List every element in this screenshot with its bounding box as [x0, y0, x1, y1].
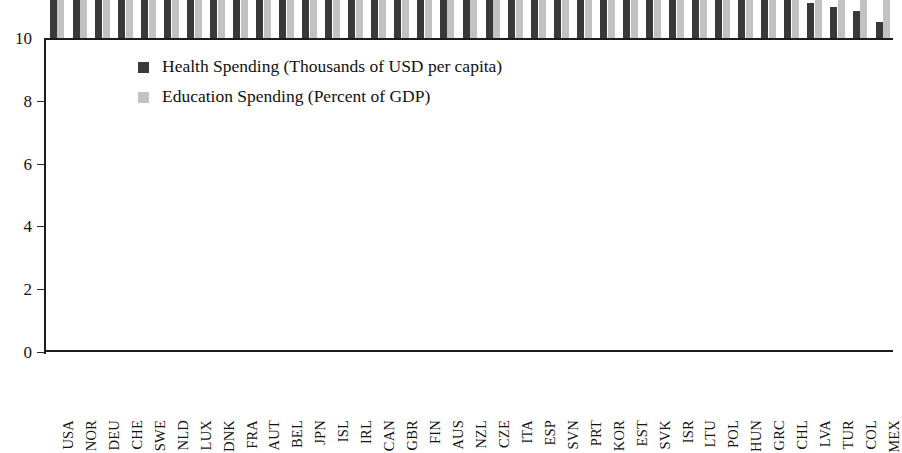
- x-tick-label-aut: AUT: [267, 420, 282, 450]
- legend-item-health: Health Spending (Thousands of USD per ca…: [138, 52, 502, 82]
- x-tick-label-kor: KOR: [612, 420, 627, 451]
- x-tick-label-prt: PRT: [589, 420, 604, 446]
- y-tick-mark: [37, 164, 44, 165]
- x-tick-label-usa: USA: [61, 420, 76, 450]
- x-tick-label-grc: GRC: [772, 420, 787, 450]
- chart-legend: Health Spending (Thousands of USD per ca…: [138, 52, 502, 112]
- x-tick-label-gbr: GBR: [405, 420, 420, 450]
- x-tick-label-fin: FIN: [428, 420, 443, 444]
- x-tick-label-irl: IRL: [359, 420, 374, 444]
- x-tick-label-nld: NLD: [176, 420, 191, 450]
- x-tick-label-esp: ESP: [543, 420, 558, 446]
- x-tick-label-deu: DEU: [107, 420, 122, 450]
- x-tick-label-cze: CZE: [497, 420, 512, 448]
- y-tick-mark: [37, 226, 44, 227]
- x-tick-label-swe: SWE: [153, 420, 168, 451]
- y-tick-mark: [37, 289, 44, 290]
- x-tick-label-lux: LUX: [199, 420, 214, 450]
- x-tick-label-lva: LVA: [818, 420, 833, 447]
- x-tick-label-isl: ISL: [336, 420, 351, 442]
- x-tick-label-isr: ISR: [681, 420, 696, 443]
- x-tick-label-can: CAN: [382, 420, 397, 451]
- x-tick-label-jpn: JPN: [313, 420, 328, 445]
- legend-label: Health Spending (Thousands of USD per ca…: [162, 58, 502, 76]
- x-tick-label-svn: SVN: [566, 420, 581, 450]
- x-tick-label-svk: SVK: [658, 420, 673, 450]
- x-tick-label-mex: MEX: [887, 420, 902, 453]
- x-tick-label-ita: ITA: [520, 420, 535, 444]
- x-tick-label-tur: TUR: [841, 420, 856, 450]
- x-tick-label-fra: FRA: [245, 420, 260, 449]
- y-tick-mark: [37, 101, 44, 102]
- x-tick-label-ltu: LTU: [703, 420, 718, 447]
- legend-item-education: Education Spending (Percent of GDP): [138, 82, 502, 112]
- legend-swatch-education-icon: [138, 92, 149, 103]
- x-tick-label-hun: HUN: [749, 420, 764, 452]
- x-tick-label-chl: CHL: [795, 420, 810, 450]
- x-tick-label-nzl: NZL: [474, 420, 489, 449]
- x-tick-label-est: EST: [635, 420, 650, 446]
- x-tick-label-bel: BEL: [290, 420, 305, 448]
- x-tick-label-col: COL: [864, 420, 879, 450]
- y-tick-mark: [37, 352, 44, 353]
- legend-swatch-health-icon: [138, 62, 149, 73]
- x-tick-label-pol: POL: [726, 420, 741, 448]
- x-tick-label-che: CHE: [130, 420, 145, 450]
- legend-label: Education Spending (Percent of GDP): [162, 88, 430, 106]
- x-tick-label-nor: NOR: [84, 420, 99, 451]
- x-tick-label-dnk: DNK: [222, 420, 237, 452]
- x-tick-label-aus: AUS: [451, 420, 466, 450]
